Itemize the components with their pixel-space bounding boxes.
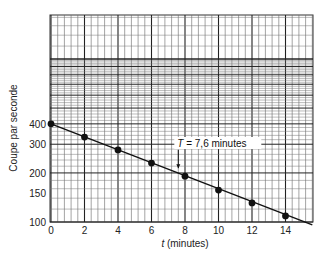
data-point [81, 134, 88, 141]
y-axis-title: Coupe par seconde [8, 84, 19, 172]
data-point [48, 120, 55, 127]
x-axis-title-unit: (minutes) [164, 238, 208, 249]
data-point [215, 187, 222, 194]
chart: 02468101214 100150200300400 T = 7,6 minu… [0, 0, 327, 262]
x-tick-label: 10 [213, 225, 225, 236]
y-tick-labels: 100150200300400 [29, 119, 46, 228]
annotation-label: T = 7,6 minutes [177, 138, 246, 149]
data-point [249, 199, 256, 206]
data-point [115, 146, 122, 153]
data-point [148, 160, 155, 167]
x-tick-label: 4 [115, 225, 121, 236]
x-tick-label: 2 [82, 225, 88, 236]
y-tick-label: 150 [29, 188, 46, 199]
y-tick-label: 100 [29, 217, 46, 228]
x-tick-label: 0 [48, 225, 54, 236]
grid [50, 15, 313, 222]
y-tick-label: 200 [29, 168, 46, 179]
y-tick-label: 400 [29, 119, 46, 130]
data-point [282, 212, 289, 219]
x-tick-labels: 02468101214 [48, 225, 291, 236]
data-point [182, 173, 189, 180]
annotation-value: = 7,6 minutes [183, 138, 246, 149]
x-tick-label: 6 [149, 225, 155, 236]
x-axis-title: t (minutes) [161, 238, 208, 249]
x-tick-label: 12 [246, 225, 258, 236]
y-tick-label: 300 [29, 139, 46, 150]
x-tick-label: 14 [280, 225, 292, 236]
x-tick-label: 8 [182, 225, 188, 236]
